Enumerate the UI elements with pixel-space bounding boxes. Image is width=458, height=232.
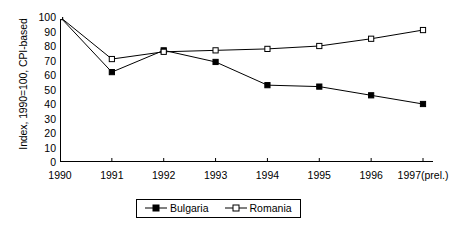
data-point-bulgaria (317, 84, 322, 89)
data-point-romania (369, 36, 374, 41)
y-axis-tick-label: 30 (32, 114, 56, 124)
data-series-group (60, 17, 426, 107)
x-axis-tick-label: 1996 (359, 170, 382, 181)
plot-area (60, 17, 433, 162)
x-axis-tick-labels: 19901991199219931994199519961997(prel.) (60, 170, 433, 184)
y-axis-tick-label: 10 (32, 143, 56, 153)
data-point-bulgaria (265, 83, 270, 88)
data-point-bulgaria (109, 70, 114, 75)
chart-legend: BulgariaRomania (136, 199, 301, 218)
line-chart: Index, 1990=100, CPI-based 1009080706050… (0, 0, 458, 232)
legend-swatch (233, 205, 239, 211)
data-point-romania (317, 43, 322, 48)
data-point-romania (60, 17, 63, 20)
legend-label: Bulgaria (170, 202, 209, 214)
legend-marker-open-square (225, 203, 247, 213)
x-axis-tick-label: 1992 (152, 170, 175, 181)
plot-svg (60, 17, 433, 162)
y-axis-tick-label: 60 (32, 70, 56, 80)
data-point-romania (213, 48, 218, 53)
legend-item-bulgaria: Bulgaria (145, 202, 209, 214)
x-axis-tick-label: 1991 (100, 170, 123, 181)
y-axis-tick-label: 20 (32, 128, 56, 138)
data-point-romania (265, 46, 270, 51)
y-axis-tick-label: 100 (32, 12, 56, 22)
legend-swatch (153, 205, 159, 211)
x-axis-tick-label: 1997(prel.) (398, 170, 449, 181)
y-axis-tick-label: 70 (32, 56, 56, 66)
axes (61, 17, 434, 162)
y-axis-tick-labels: 1009080706050403020100 (24, 17, 56, 162)
x-axis-tick-label: 1994 (256, 170, 279, 181)
x-axis-tick-label: 1995 (308, 170, 331, 181)
y-axis-tick-label: 40 (32, 99, 56, 109)
data-point-romania (161, 49, 166, 54)
legend-label: Romania (250, 202, 292, 214)
y-axis-tick-label: 0 (32, 157, 56, 167)
legend-item-romania: Romania (225, 202, 292, 214)
y-axis-tick-label: 50 (32, 85, 56, 95)
data-point-romania (420, 27, 425, 32)
data-point-bulgaria (213, 59, 218, 64)
data-point-bulgaria (420, 101, 425, 106)
legend-marker-filled-square (145, 203, 167, 213)
y-axis-tick-label: 80 (32, 41, 56, 51)
data-point-bulgaria (369, 93, 374, 98)
x-axis-tick-label: 1993 (204, 170, 227, 181)
data-point-romania (109, 56, 114, 61)
y-axis-tick-label: 90 (32, 27, 56, 37)
x-axis-tick-label: 1990 (48, 170, 71, 181)
